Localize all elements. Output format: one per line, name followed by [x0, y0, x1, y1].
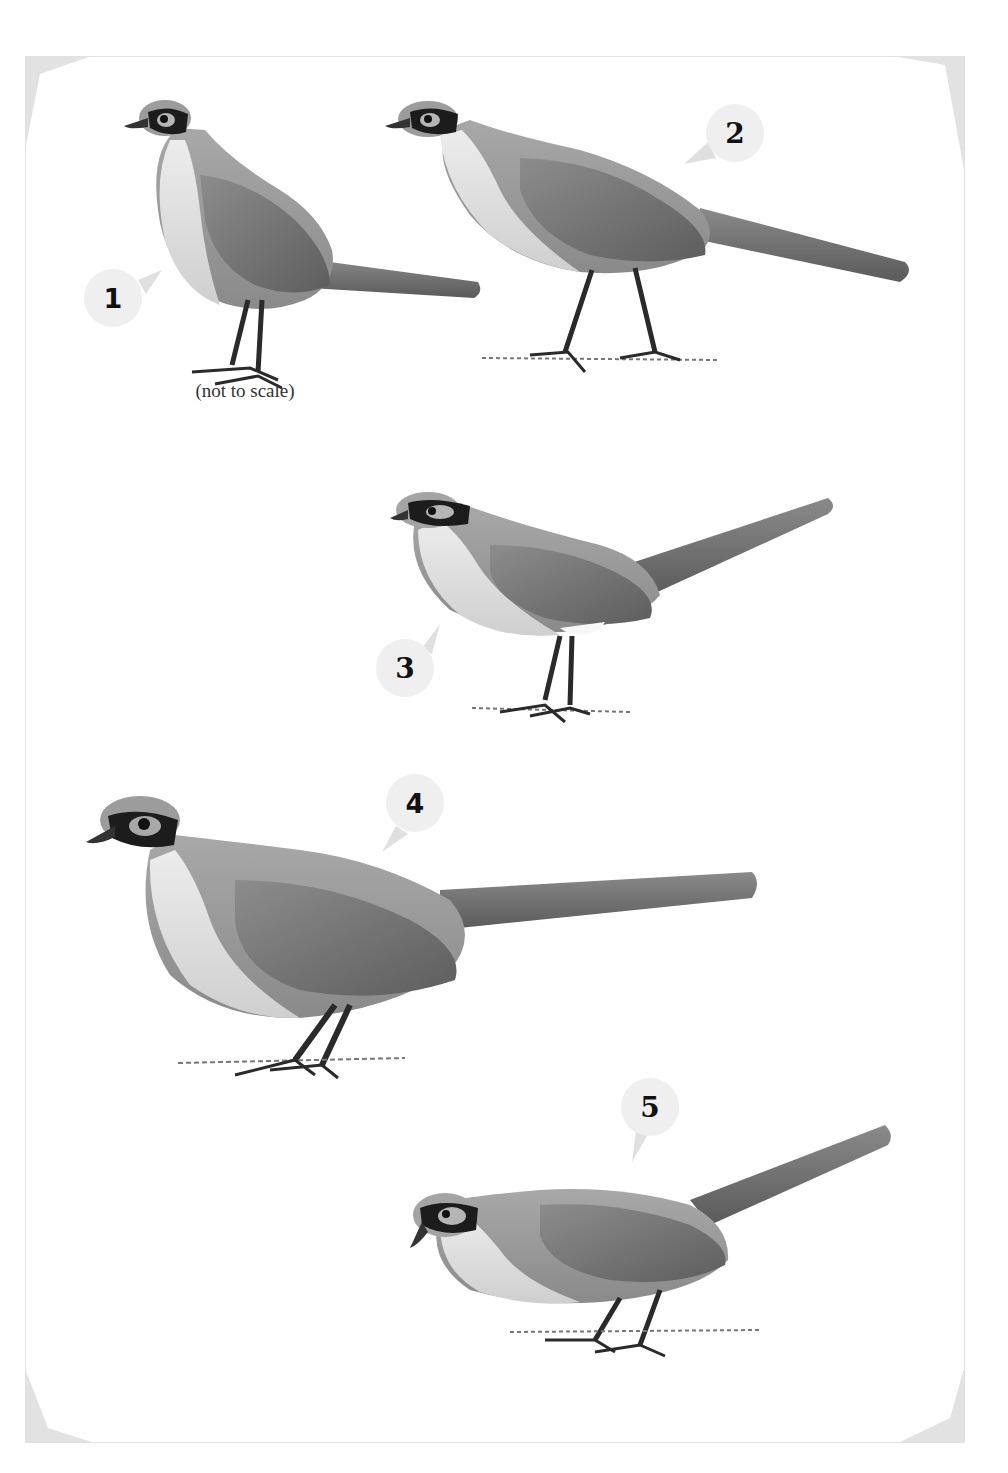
label-badge-2: 2 [706, 104, 764, 162]
label-number: 5 [640, 1091, 659, 1124]
scale-caption: (not to scale) [150, 380, 340, 402]
label-number: 4 [406, 788, 425, 819]
label-number: 1 [104, 283, 123, 314]
label-badge-4: 4 [386, 774, 444, 832]
corner-top-right [893, 56, 965, 175]
bird-illustration-3 [390, 492, 833, 722]
label-badge-3: 3 [376, 639, 434, 697]
illustration-plate: 1 2 3 4 5 (not to scale) [0, 0, 1008, 1473]
label-number: 2 [725, 117, 744, 150]
label-number: 3 [395, 652, 414, 685]
label-badge-1: 1 [84, 269, 142, 327]
corner-bottom-left [25, 1368, 95, 1443]
bird-illustration-2 [385, 101, 909, 372]
bird-illustration-4 [86, 796, 757, 1078]
bird-illustration-1 [124, 100, 480, 388]
corner-top-left [25, 56, 92, 150]
corner-bottom-right [898, 1365, 965, 1443]
pointer-1 [138, 270, 162, 294]
bird-illustration-5 [410, 1125, 891, 1356]
plate-artwork [0, 0, 1008, 1473]
label-badge-5: 5 [621, 1078, 679, 1136]
